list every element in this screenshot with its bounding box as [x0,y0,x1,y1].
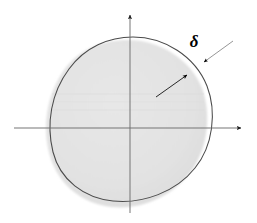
delta-label: δ [184,31,204,53]
diagram-svg [0,0,257,223]
figure-canvas: δ [0,0,257,223]
delta-leader-line [204,41,233,62]
